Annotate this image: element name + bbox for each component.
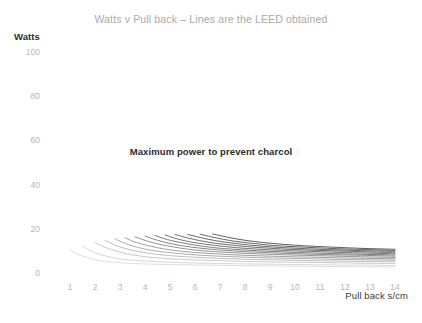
series-layer [70, 234, 395, 267]
series-line-11 [175, 235, 395, 253]
plot-area [0, 0, 422, 323]
chart-container: Watts v Pull back – Lines are the LEED o… [0, 0, 422, 323]
